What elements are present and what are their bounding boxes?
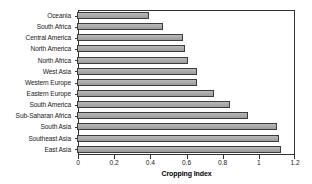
x-axis-tick-label: 0.2 <box>110 159 119 166</box>
bar <box>77 57 188 64</box>
category-label: South America <box>0 99 75 110</box>
x-axis-title: Cropping Index <box>78 170 295 177</box>
x-axis-tick-label: 0.8 <box>218 159 227 166</box>
bar-row <box>78 55 295 66</box>
bar-row <box>78 88 295 99</box>
bar <box>77 34 183 41</box>
bar <box>77 79 197 86</box>
bar-row <box>78 32 295 43</box>
category-label: Eastern Europe <box>0 88 75 99</box>
bar <box>77 101 230 108</box>
bar-row <box>78 144 295 155</box>
category-label: South Africa <box>0 21 75 32</box>
bar-row <box>78 110 295 121</box>
category-label: North America <box>0 43 75 54</box>
x-axis-tick-label: 1.2 <box>290 159 299 166</box>
x-axis-tick-labels: 00.20.40.60.811.2 <box>78 159 295 169</box>
category-label: East Asia <box>0 144 75 155</box>
cropping-index-bar-chart: OceaniaSouth AfricaCentral AmericaNorth … <box>0 0 312 184</box>
category-label: Southeast Asia <box>0 133 75 144</box>
bar-row <box>78 121 295 132</box>
category-label: Sub-Saharan Africa <box>0 110 75 121</box>
bar-row <box>78 43 295 54</box>
bar <box>77 123 277 130</box>
category-label: Central America <box>0 32 75 43</box>
bar <box>77 12 149 19</box>
bar <box>77 146 281 153</box>
category-label: Oceania <box>0 10 75 21</box>
category-axis-labels: OceaniaSouth AfricaCentral AmericaNorth … <box>0 10 75 155</box>
bar <box>77 23 163 30</box>
x-axis-tick-label: 0.4 <box>146 159 155 166</box>
bar-row <box>78 133 295 144</box>
category-label: Western Europe <box>0 77 75 88</box>
category-label: North Africa <box>0 55 75 66</box>
bar-row <box>78 77 295 88</box>
bar-row <box>78 99 295 110</box>
bar-row <box>78 10 295 21</box>
bar-row <box>78 21 295 32</box>
bar <box>77 68 197 75</box>
bar <box>77 45 185 52</box>
bar <box>77 90 214 97</box>
x-axis-tick-label: 1 <box>257 159 261 166</box>
bar <box>77 112 248 119</box>
x-axis-tick-label: 0.6 <box>182 159 191 166</box>
bar <box>77 135 279 142</box>
category-label: West Asia <box>0 66 75 77</box>
bar-row <box>78 66 295 77</box>
bars-layer <box>78 10 295 155</box>
x-axis-tick-label: 0 <box>76 159 80 166</box>
category-label: South Asia <box>0 121 75 132</box>
